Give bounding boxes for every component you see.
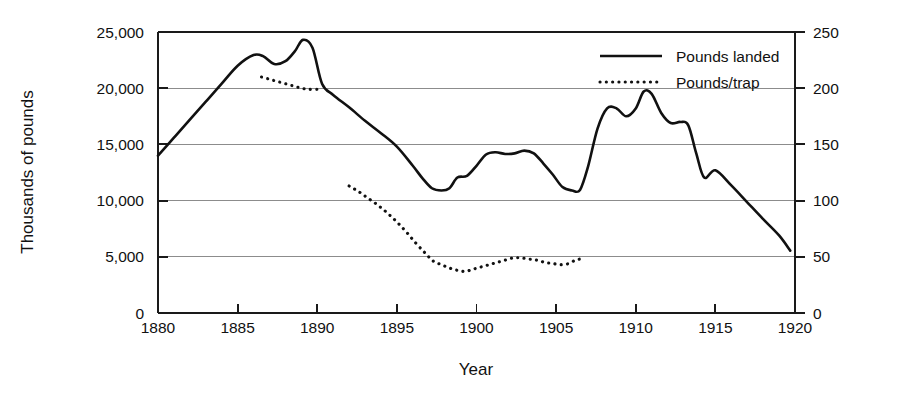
y-tick-label-left: 25,000 (97, 24, 145, 41)
x-tick-label: 1880 (141, 319, 176, 336)
x-tick-label: 1915 (698, 319, 732, 336)
y-tick-label-left: 0 (135, 305, 144, 322)
chart-figure: 188018851890189519001905191019151920 05,… (0, 0, 898, 399)
line-chart: 188018851890189519001905191019151920 05,… (0, 0, 898, 399)
y-tick-label-right: 200 (813, 80, 839, 97)
legend-label: Pounds/trap (676, 74, 760, 91)
y-tick-label-left: 15,000 (97, 136, 145, 153)
x-tick-label: 1890 (300, 319, 335, 336)
x-tick-label: 1905 (539, 319, 573, 336)
y-tick-label-left: 10,000 (97, 192, 145, 209)
x-tick-label: 1900 (459, 319, 494, 336)
legend-label: Pounds landed (676, 48, 779, 65)
y-tick-label-left: 5,000 (105, 248, 144, 265)
x-tick-label: 1910 (619, 319, 654, 336)
x-axis-tick-labels: 188018851890189519001905191019151920 (141, 319, 813, 336)
y-axis-title: Thousands of pounds (18, 90, 37, 254)
x-axis-title: Year (459, 360, 494, 379)
x-tick-label: 1895 (380, 319, 414, 336)
x-tick-label: 1885 (220, 319, 254, 336)
y-tick-label-right: 150 (813, 136, 839, 153)
y-tick-label-left: 20,000 (97, 80, 145, 97)
x-tick-label: 1920 (778, 319, 813, 336)
y-tick-label-right: 50 (813, 248, 831, 265)
y-tick-label-right: 100 (813, 192, 839, 209)
y-tick-label-right: 0 (813, 305, 822, 322)
y-tick-label-right: 250 (813, 24, 839, 41)
